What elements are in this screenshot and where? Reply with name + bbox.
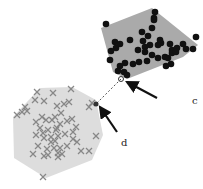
dot-point — [149, 52, 156, 59]
dot-point — [165, 55, 172, 62]
dot-point — [108, 48, 115, 55]
dot-point — [117, 41, 124, 48]
dot-point — [140, 38, 147, 45]
dot-point — [157, 37, 164, 44]
dot-point — [152, 9, 159, 16]
label-c: c — [192, 95, 198, 106]
dot-point — [155, 55, 162, 62]
dot-point — [136, 59, 143, 66]
dot-point — [163, 63, 170, 70]
arrow-icon — [127, 82, 157, 98]
dot-point — [190, 46, 197, 53]
dot-point — [107, 57, 114, 64]
dot-point — [149, 25, 156, 32]
dot-point — [167, 41, 174, 48]
diagram-canvas: c d — [0, 0, 203, 189]
dot-point — [151, 17, 158, 24]
dot-point — [183, 46, 190, 53]
label-d: d — [121, 137, 127, 148]
dot-point — [193, 34, 200, 41]
dot-point — [130, 61, 137, 68]
diagram-svg — [0, 0, 203, 189]
dot-point — [139, 29, 146, 36]
dot-point — [115, 68, 122, 75]
cluster-hulls — [13, 8, 198, 178]
dot-point — [103, 21, 110, 28]
connector-line — [94, 77, 124, 107]
dot-point — [145, 33, 152, 40]
dot-point — [135, 47, 142, 54]
arrow-icon — [100, 107, 117, 132]
dot-point — [144, 58, 151, 65]
pointer-arrows — [100, 82, 157, 132]
dot-point — [173, 49, 180, 56]
dot-point — [142, 49, 149, 56]
dot-point — [124, 72, 131, 79]
dot-point — [127, 37, 134, 44]
